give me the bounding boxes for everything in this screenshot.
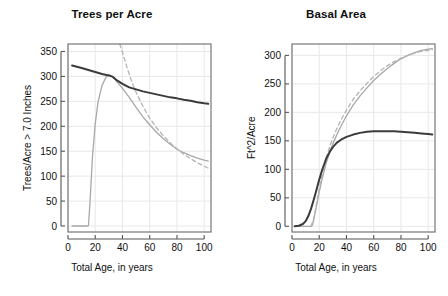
svg-text:350: 350: [40, 46, 57, 57]
svg-text:80: 80: [395, 242, 407, 253]
panel-trees-per-acre: Trees per Acre 0501001502002503003500204…: [0, 0, 224, 296]
svg-text:40: 40: [341, 242, 353, 253]
svg-text:0: 0: [65, 242, 71, 253]
svg-text:20: 20: [90, 242, 102, 253]
svg-text:60: 60: [144, 242, 156, 253]
svg-text:200: 200: [40, 121, 57, 132]
svg-text:300: 300: [264, 50, 281, 61]
svg-text:100: 100: [264, 164, 281, 175]
panel-basal-area: Basal Area 05010015020025030002040608010…: [224, 0, 448, 296]
svg-text:50: 50: [46, 196, 58, 207]
figure-container: Trees per Acre 0501001502002503003500204…: [0, 0, 448, 296]
plot-area-trees-per-acre: 050100150200250300350020406080100: [0, 0, 224, 296]
svg-text:0: 0: [275, 221, 281, 232]
svg-text:200: 200: [264, 107, 281, 118]
svg-text:250: 250: [40, 96, 57, 107]
x-axis-title-right: Total Age, in years: [224, 262, 448, 273]
svg-text:100: 100: [196, 242, 213, 253]
svg-text:80: 80: [171, 242, 183, 253]
svg-text:60: 60: [368, 242, 380, 253]
svg-text:0: 0: [289, 242, 295, 253]
svg-text:50: 50: [270, 192, 282, 203]
y-axis-title-left: Trees/Acre > 7.0 Inches: [22, 85, 33, 191]
svg-text:150: 150: [40, 146, 57, 157]
svg-text:150: 150: [264, 135, 281, 146]
y-axis-title-right: Ft^2/Acre: [246, 117, 257, 159]
svg-text:0: 0: [51, 221, 57, 232]
svg-text:250: 250: [264, 78, 281, 89]
svg-text:100: 100: [420, 242, 437, 253]
svg-text:40: 40: [117, 242, 129, 253]
svg-text:100: 100: [40, 171, 57, 182]
svg-text:300: 300: [40, 71, 57, 82]
x-axis-title-left: Total Age, in years: [0, 262, 224, 273]
svg-text:20: 20: [314, 242, 326, 253]
plot-area-basal-area: 050100150200250300020406080100: [224, 0, 448, 296]
